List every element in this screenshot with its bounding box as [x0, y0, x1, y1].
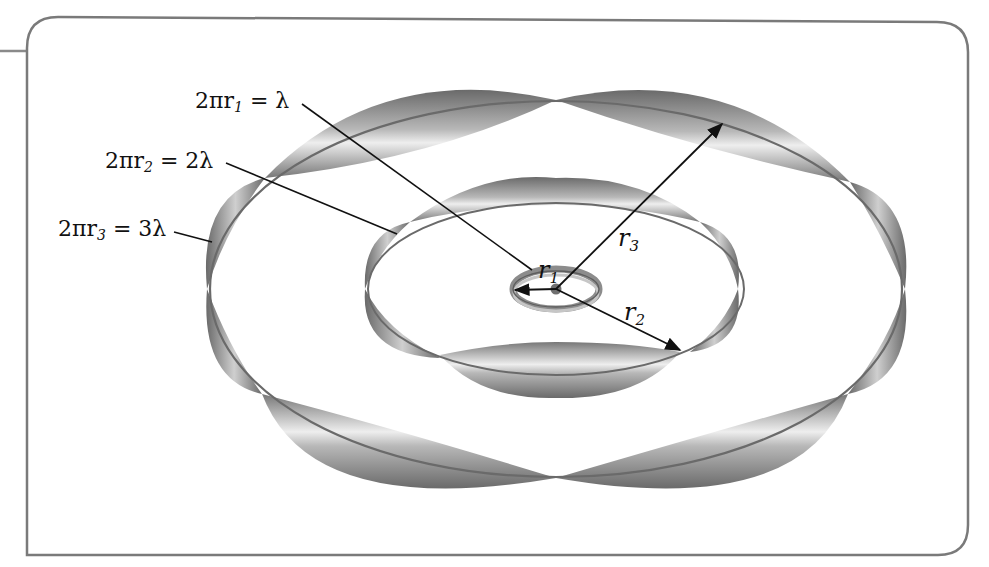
radius-label-r2: r2 — [624, 300, 645, 328]
radius-arrow-r2 — [556, 289, 680, 350]
standing-wave-orbit-diagram — [0, 0, 989, 567]
radius-label-r3: r3 — [618, 226, 639, 254]
equation-label-r1: 2πr1 = λ — [195, 90, 289, 114]
equation-label-r3: 2πr3 = 3λ — [58, 218, 166, 242]
radius-arrow-r1 — [515, 289, 556, 290]
equation-label-r2: 2πr2 = 2λ — [105, 150, 213, 174]
radius-arrow-r3 — [556, 124, 722, 289]
leader-r3 — [174, 232, 212, 242]
radius-label-r1: r1 — [538, 258, 559, 286]
